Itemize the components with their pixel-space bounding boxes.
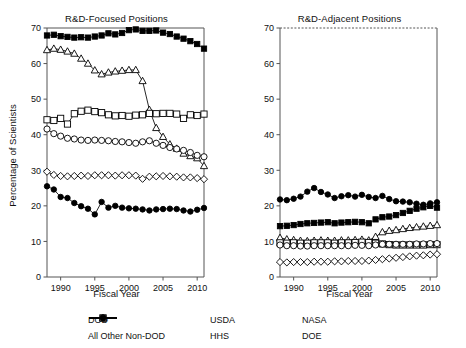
svg-text:2000: 2000 <box>119 283 139 293</box>
svg-text:10: 10 <box>264 237 274 247</box>
filled-circle-icon <box>88 312 118 324</box>
legend-item-nasa[interactable]: NASA <box>302 315 394 325</box>
svg-text:10: 10 <box>31 237 41 247</box>
svg-text:2005: 2005 <box>153 283 173 293</box>
chart-figure: R&D-Focused Positions Percentage of Scie… <box>0 0 466 348</box>
panel-rd-adjacent: R&D-Adjacent Positions Fiscal Year 01020… <box>233 0 466 310</box>
svg-text:50: 50 <box>264 94 274 104</box>
svg-text:60: 60 <box>264 59 274 69</box>
svg-text:1990: 1990 <box>284 283 304 293</box>
legend-item-hhs[interactable]: HHS <box>210 331 302 341</box>
legend-item-doe[interactable]: DOE <box>302 331 394 341</box>
svg-text:1995: 1995 <box>85 283 105 293</box>
svg-text:1995: 1995 <box>318 283 338 293</box>
svg-text:40: 40 <box>31 130 41 140</box>
plot-area-left: 01020304050607019901995200020052010 <box>0 0 233 310</box>
svg-text:60: 60 <box>31 59 41 69</box>
legend-label: All Other Non-DOD <box>88 331 165 341</box>
svg-text:50: 50 <box>31 94 41 104</box>
svg-text:40: 40 <box>264 130 274 140</box>
svg-text:2005: 2005 <box>386 283 406 293</box>
panel-rd-focused: R&D-Focused Positions Percentage of Scie… <box>0 0 233 310</box>
svg-text:0: 0 <box>269 272 274 282</box>
svg-text:2000: 2000 <box>352 283 372 293</box>
legend-label: USDA <box>210 315 235 325</box>
svg-text:20: 20 <box>31 201 41 211</box>
legend-item-usda[interactable]: USDA <box>210 315 302 325</box>
svg-text:2010: 2010 <box>187 283 207 293</box>
legend-item-all-other-non-dod[interactable]: All Other Non-DOD <box>88 331 210 341</box>
svg-text:30: 30 <box>31 166 41 176</box>
svg-text:70: 70 <box>264 23 274 33</box>
svg-text:30: 30 <box>264 166 274 176</box>
legend-label: NASA <box>302 315 327 325</box>
svg-text:1990: 1990 <box>51 283 71 293</box>
svg-text:70: 70 <box>31 23 41 33</box>
legend-label: HHS <box>210 331 229 341</box>
svg-text:2010: 2010 <box>420 283 440 293</box>
svg-text:0: 0 <box>36 272 41 282</box>
svg-text:20: 20 <box>264 201 274 211</box>
chart-legend: DODUSDANASAAll Other Non-DODHHSDOE <box>0 306 466 348</box>
plot-area-right: 01020304050607019901995200020052010 <box>233 0 466 310</box>
legend-label: DOE <box>302 331 322 341</box>
